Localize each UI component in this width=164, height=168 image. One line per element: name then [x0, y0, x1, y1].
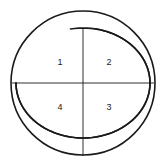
quadrant-label-2: 2: [106, 57, 111, 67]
quadrant-diagram: 1 2 4 3: [0, 0, 164, 168]
inner-ellipse-upper-right-arc: [96, 29, 150, 83]
quadrant-label-3: 3: [106, 102, 111, 112]
figure-container: 1 2 4 3: [0, 0, 164, 168]
quadrant-label-1: 1: [57, 57, 62, 67]
quadrant-label-4: 4: [57, 102, 62, 112]
